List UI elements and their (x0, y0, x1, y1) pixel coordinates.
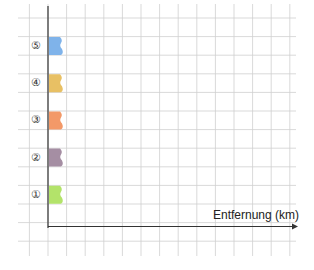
row-2-marker: ② (31, 151, 41, 164)
row-5-marker: ⑤ (31, 39, 41, 52)
grid-diagram (0, 0, 314, 270)
row-1-marker: ① (31, 188, 41, 201)
row-5-bar (49, 37, 63, 55)
row-3-bar (49, 111, 63, 129)
row-4-bar (49, 74, 63, 92)
row-bars (49, 37, 63, 204)
x-axis-arrow-icon (292, 224, 298, 230)
x-axis-label: Entfernung (km) (213, 208, 299, 222)
row-4-marker: ④ (31, 76, 41, 89)
row-2-bar (49, 149, 63, 167)
row-1-bar (49, 186, 63, 204)
row-3-marker: ③ (31, 113, 41, 126)
